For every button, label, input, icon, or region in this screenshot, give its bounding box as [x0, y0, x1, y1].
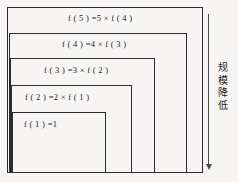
- equation-label-level-2: f ( 2 ) =2 × f ( 1 ): [25, 93, 89, 102]
- diagram-canvas: f ( 5 ) =5 × f ( 4 ) f ( 4 ) =4 × f ( 3 …: [0, 0, 238, 182]
- caption-char-2: 模: [216, 75, 230, 88]
- equation-label-level-3: f ( 3 ) =3 × f ( 2 ): [44, 66, 108, 75]
- scale-decreasing-caption: 规 模 降 低: [216, 62, 230, 112]
- caption-char-4: 低: [216, 100, 230, 113]
- equation-label-level-5: f ( 5 ) =5 × f ( 4 ): [68, 14, 132, 23]
- caption-char-1: 规: [216, 62, 230, 75]
- scale-arrow-head-icon: [206, 164, 212, 170]
- equation-label-level-1: f ( 1 ) =1: [24, 120, 57, 129]
- caption-char-3: 降: [216, 87, 230, 100]
- equation-label-level-4: f ( 4 ) =4 × f ( 3 ): [62, 40, 126, 49]
- scale-arrow-shaft: [208, 14, 209, 166]
